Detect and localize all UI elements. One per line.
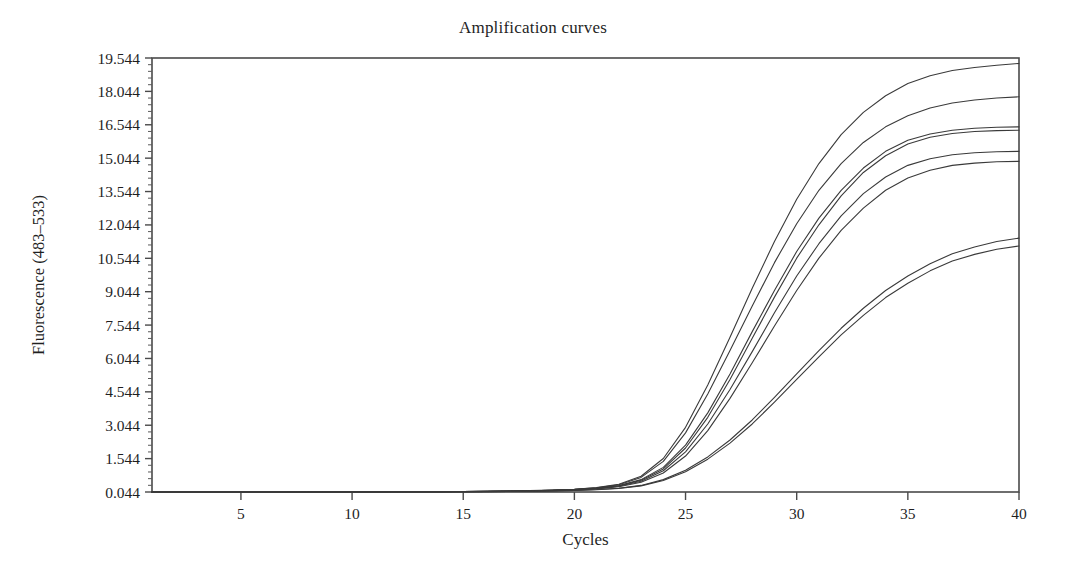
amplification-curve [152,161,1019,492]
y-axis-tick-label: 19.544 [97,50,140,67]
y-axis-tick-label: 13.544 [97,183,140,200]
y-axis-tick-label: 16.544 [97,116,140,133]
amplification-curves-figure: Amplification curves Fluorescence (483–5… [0,0,1066,582]
amplification-curve [152,97,1019,492]
y-axis-tick-label: 12.044 [97,216,140,233]
y-axis-tick-label: 1.544 [105,450,140,467]
y-axis-tick-label: 3.044 [105,417,140,434]
amplification-curve [152,246,1019,492]
x-axis-tick-label: 10 [344,505,360,522]
y-axis-tick-label: 9.044 [105,283,140,300]
x-axis-tick-label: 35 [900,505,916,522]
curve-series-group [152,63,1019,492]
x-axis-tick-label: 15 [455,505,471,522]
y-axis-ticks: 0.0441.5443.0444.5446.0447.5449.04410.54… [97,50,152,501]
y-axis-tick-label: 4.544 [105,383,140,400]
amplification-curve [152,63,1019,492]
y-axis-tick-label: 15.044 [97,150,140,167]
x-axis-tick-label: 40 [1011,505,1027,522]
y-axis-tick-label: 7.544 [105,317,140,334]
x-axis-tick-label: 25 [678,505,694,522]
plot-area: 0.0441.5443.0444.5446.0447.5449.04410.54… [0,0,1066,582]
axis-frame [152,58,1019,492]
y-axis-tick-label: 18.044 [97,83,140,100]
y-axis-tick-label: 0.044 [105,484,140,501]
amplification-curve [152,238,1019,492]
x-axis-tick-label: 20 [567,505,583,522]
x-axis-tick-label: 30 [789,505,805,522]
amplification-curve [152,127,1019,492]
amplification-curve [152,151,1019,492]
amplification-curve [152,130,1019,492]
x-axis-ticks: 510152025303540 [237,492,1027,522]
y-axis-tick-label: 6.044 [105,350,140,367]
y-axis-tick-label: 10.544 [97,250,140,267]
x-axis-tick-label: 5 [237,505,245,522]
